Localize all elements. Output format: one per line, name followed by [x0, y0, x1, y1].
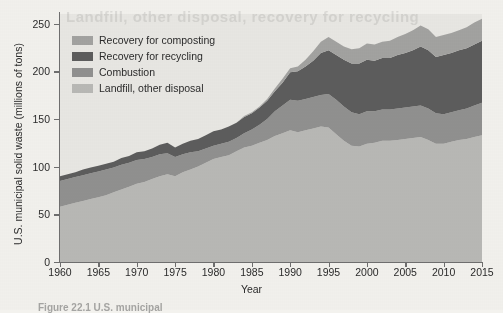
x-tick-label: 1985 — [240, 266, 263, 278]
x-tick-label: 1990 — [278, 266, 301, 278]
chart-legend: Recovery for compostingRecovery for recy… — [72, 33, 215, 95]
y-tick-label: 100 — [32, 161, 50, 173]
x-tick-label: 2010 — [432, 266, 455, 278]
x-tick-label: 2005 — [394, 266, 417, 278]
legend-swatch-icon — [72, 68, 93, 77]
x-tick-label: 1975 — [163, 266, 186, 278]
y-tick-mark — [54, 24, 59, 25]
y-axis-line — [59, 12, 60, 263]
legend-item: Landfill, other disposal — [72, 81, 215, 95]
y-tick-label: 150 — [32, 113, 50, 125]
y-tick-mark — [54, 167, 59, 168]
y-tick-label: 250 — [32, 18, 50, 30]
legend-item-label: Recovery for composting — [99, 35, 215, 46]
area-band-landfill-other-disposal — [60, 127, 482, 262]
bleed-through-artifact: Landfill, other disposal, recovery for r… — [66, 8, 466, 30]
x-tick-label: 2000 — [355, 266, 378, 278]
legend-item: Recovery for composting — [72, 33, 215, 47]
legend-item-label: Recovery for recycling — [99, 51, 203, 62]
y-tick-label: 200 — [32, 65, 50, 77]
legend-item: Recovery for recycling — [72, 49, 215, 63]
legend-swatch-icon — [72, 52, 93, 61]
y-tick-mark — [54, 262, 59, 263]
x-axis-line — [59, 262, 482, 263]
legend-swatch-icon — [72, 36, 93, 45]
figure-caption: Figure 22.1 U.S. municipal — [38, 302, 338, 313]
legend-item-label: Combustion — [99, 67, 155, 78]
x-tick-label: 1965 — [87, 266, 110, 278]
y-axis-title: U.S. municipal solid waste (millions of … — [12, 18, 24, 270]
x-tick-label: 1960 — [48, 266, 71, 278]
x-tick-label: 1980 — [202, 266, 225, 278]
legend-item: Combustion — [72, 65, 215, 79]
legend-swatch-icon — [72, 84, 93, 93]
y-tick-mark — [54, 119, 59, 120]
x-tick-label: 2015 — [470, 266, 493, 278]
x-tick-label: 1995 — [317, 266, 340, 278]
legend-item-label: Landfill, other disposal — [99, 83, 203, 94]
y-tick-mark — [54, 71, 59, 72]
y-tick-label: 50 — [38, 208, 50, 220]
x-axis-title: Year — [0, 283, 503, 295]
y-tick-mark — [54, 214, 59, 215]
x-tick-label: 1970 — [125, 266, 148, 278]
